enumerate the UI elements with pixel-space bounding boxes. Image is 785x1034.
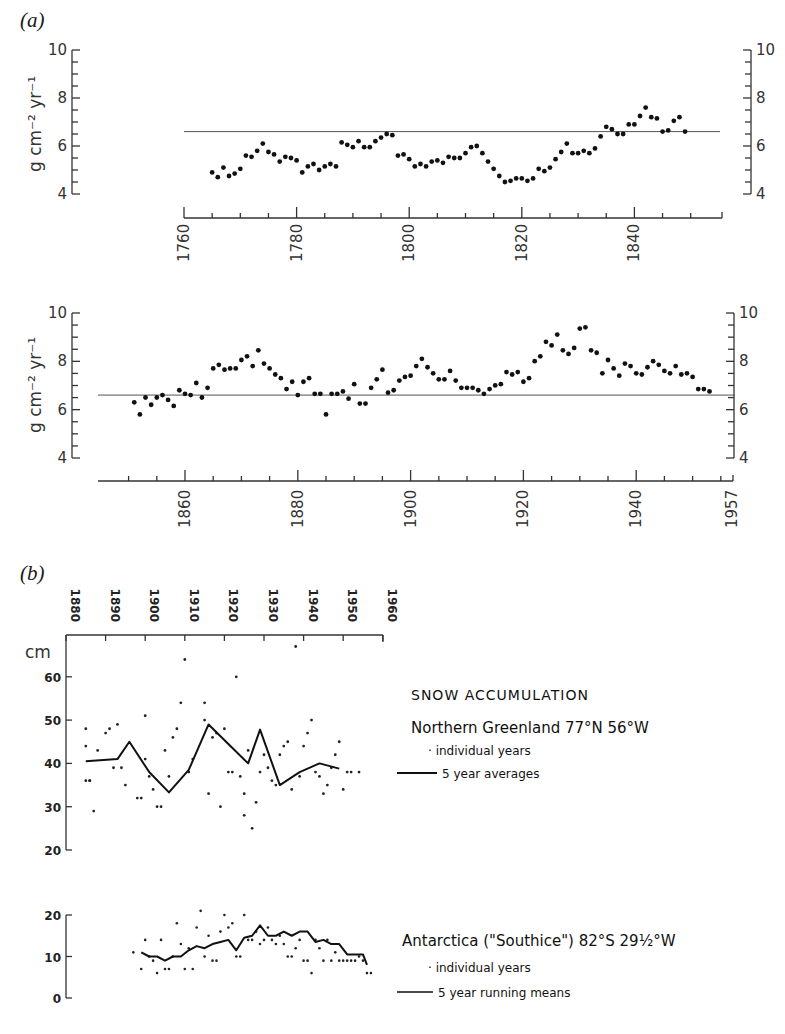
data-point	[233, 366, 238, 371]
data-point	[448, 368, 453, 373]
y-tick-label: 6	[57, 137, 67, 155]
data-point	[480, 151, 485, 156]
data-point	[239, 775, 242, 778]
y-tick-label: 10	[756, 41, 775, 59]
data-point	[132, 951, 135, 954]
data-point	[274, 784, 277, 787]
data-point	[560, 348, 565, 353]
data-point	[696, 387, 701, 392]
data-point	[707, 389, 712, 394]
data-point	[152, 788, 155, 791]
data-point	[553, 157, 558, 162]
individual-years-antarctica	[132, 910, 372, 975]
data-point	[259, 943, 262, 946]
data-point	[577, 326, 582, 331]
data-point	[249, 154, 254, 159]
data-point	[401, 152, 406, 157]
data-point	[334, 951, 337, 954]
data-point	[195, 926, 198, 929]
data-point	[215, 175, 220, 180]
legend-line-greenland: 5 year averages	[442, 767, 539, 781]
data-point	[168, 775, 171, 778]
data-point	[419, 356, 424, 361]
legend-line-antarctica: 5 year running means	[438, 986, 570, 1000]
data-point	[583, 325, 588, 330]
data-point	[271, 779, 274, 782]
data-point	[108, 727, 111, 730]
data-point	[203, 955, 206, 958]
y-tick-label: 10	[48, 304, 67, 322]
data-point	[566, 352, 571, 357]
data-point	[203, 701, 206, 704]
data-point	[391, 388, 396, 393]
data-point	[301, 379, 306, 384]
x-tick-label: 1880	[289, 490, 307, 528]
data-point	[302, 745, 305, 748]
data-point	[572, 345, 577, 350]
data-point	[457, 156, 462, 161]
legend-title: SNOW ACCUMULATION	[411, 687, 589, 703]
data-point	[683, 129, 688, 134]
data-point	[425, 365, 430, 370]
data-point	[338, 959, 341, 962]
data-point	[536, 166, 541, 171]
data-point	[184, 968, 187, 971]
data-point	[284, 387, 289, 392]
data-point	[191, 968, 194, 971]
data-point	[232, 171, 237, 176]
data-point	[442, 377, 447, 382]
data-point	[486, 159, 491, 164]
y-tick-label: 20	[44, 844, 61, 858]
data-point	[358, 771, 361, 774]
data-point	[626, 122, 631, 127]
data-point	[498, 382, 503, 387]
data-point	[231, 922, 234, 925]
data-point	[156, 805, 159, 808]
data-point	[302, 959, 305, 962]
data-point	[487, 387, 492, 392]
data-point	[168, 968, 171, 971]
data-point	[211, 959, 214, 962]
data-point	[160, 939, 163, 942]
data-point	[514, 176, 519, 181]
y-axis-right-a-top: 10864	[743, 41, 775, 203]
y-tick-label: 8	[57, 89, 67, 107]
data-point	[338, 740, 341, 743]
data-point	[435, 158, 440, 163]
y-tick-label: 60	[44, 671, 61, 685]
data-point	[380, 367, 385, 372]
data-point	[286, 955, 289, 958]
y-tick-label: 4	[57, 185, 67, 203]
x-tick-label: 1860	[176, 490, 194, 528]
y-tick-label: 10	[48, 41, 67, 59]
data-point	[639, 372, 644, 377]
data-point	[362, 145, 367, 150]
x-tick-label: 1760	[175, 224, 193, 262]
data-point	[227, 926, 230, 929]
legend-dots-greenland: · individual years	[428, 744, 531, 758]
data-point	[154, 395, 159, 400]
x-tick-label: 1940	[306, 589, 320, 622]
x-axis-a-top: 17601780180018201840	[175, 207, 722, 262]
data-point	[318, 391, 323, 396]
data-point	[263, 753, 266, 756]
data-point	[690, 375, 695, 380]
data-point	[350, 771, 353, 774]
data-point	[555, 332, 560, 337]
data-point	[408, 373, 413, 378]
data-point	[469, 145, 474, 150]
data-point	[354, 959, 357, 962]
y-tick-label: 4	[756, 185, 766, 203]
data-point	[651, 359, 656, 364]
data-point	[132, 400, 137, 405]
data-point	[632, 122, 637, 127]
data-point	[638, 114, 643, 119]
data-point	[414, 364, 419, 369]
data-point	[397, 378, 402, 383]
data-point	[611, 366, 616, 371]
data-point	[275, 943, 278, 946]
data-point	[531, 176, 536, 181]
data-point	[88, 779, 91, 782]
data-point	[294, 158, 299, 163]
data-point	[136, 797, 139, 800]
